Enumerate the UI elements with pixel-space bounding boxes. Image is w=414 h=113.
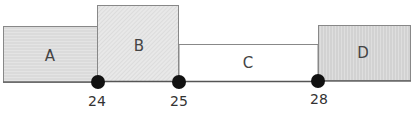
marker-label-25: 25 bbox=[170, 93, 188, 109]
block-a: A bbox=[4, 27, 98, 83]
marker-label-24: 24 bbox=[88, 93, 106, 109]
block-c: C bbox=[179, 45, 318, 82]
block-c-label: C bbox=[243, 54, 253, 72]
marker-dot bbox=[91, 75, 105, 89]
block-b: B bbox=[98, 6, 179, 82]
marker-dot bbox=[311, 74, 325, 88]
block-d-label: D bbox=[357, 44, 369, 62]
block-b-label: B bbox=[134, 37, 144, 55]
marker-label-28: 28 bbox=[310, 91, 328, 107]
block-a-label: A bbox=[45, 47, 56, 65]
block-d: D bbox=[319, 26, 411, 81]
marker-dot bbox=[172, 75, 186, 89]
timeline-diagram: A C B D 24 25 28 bbox=[0, 0, 414, 113]
